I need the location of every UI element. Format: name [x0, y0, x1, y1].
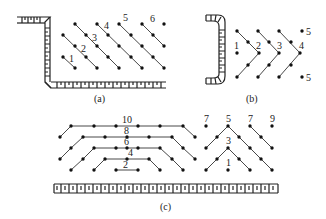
label-b-4: 4 [299, 40, 304, 51]
label-c-8: 8 [124, 125, 129, 136]
dots-c [58, 124, 273, 171]
labels-a: 1 2 3 4 5 6 [69, 12, 155, 64]
label-c-9: 9 [270, 113, 275, 124]
label-b-3: 3 [277, 40, 282, 51]
label-b-5-bottom: 5 [306, 72, 311, 83]
label-b-2: 2 [256, 40, 261, 51]
labels-c: 10 8 6 4 2 7 5 7 9 3 1 [122, 113, 275, 170]
label-c-3: 3 [226, 135, 231, 146]
label-c-6: 6 [124, 136, 129, 147]
label-a-1: 1 [69, 53, 74, 64]
floor-c [54, 184, 278, 193]
label-c-5: 5 [226, 113, 231, 124]
label-c-2: 2 [123, 159, 128, 170]
label-a-4: 4 [104, 20, 109, 31]
label-b-1: 1 [234, 40, 239, 51]
label-a-2: 2 [81, 43, 86, 54]
label-c-4: 4 [128, 147, 133, 158]
caption-b: (b) [246, 93, 258, 105]
caption-a: (a) [94, 93, 105, 105]
dots-b [235, 29, 303, 78]
label-b-5-top: 5 [306, 26, 311, 37]
caption-c: (c) [160, 201, 171, 213]
figure-a: 1 2 3 4 5 6 (a) [17, 12, 166, 105]
label-c-7-left: 7 [204, 113, 209, 124]
figure-c: 10 8 6 4 2 7 5 7 9 3 1 (c) [54, 113, 278, 213]
label-a-6: 6 [150, 13, 155, 24]
label-a-5: 5 [123, 12, 128, 23]
sequence-lines-b [237, 31, 300, 77]
label-c-7-right: 7 [248, 113, 253, 124]
sequence-lines-a [63, 24, 164, 68]
label-a-3: 3 [92, 32, 97, 43]
sequence-lines-c [60, 126, 272, 170]
wall-a [17, 17, 166, 88]
figure-b: 1 2 3 4 5 5 (b) [206, 15, 311, 105]
label-c-1: 1 [226, 157, 231, 168]
wall-b [206, 15, 225, 84]
label-c-10: 10 [122, 114, 132, 125]
diagram-canvas: 1 2 3 4 5 6 (a) [0, 0, 326, 219]
